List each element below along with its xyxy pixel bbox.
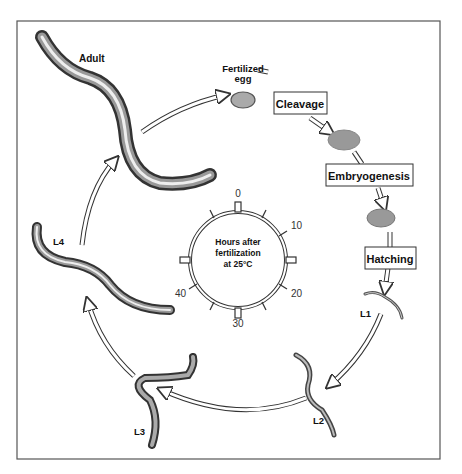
clock-tick-30: 30 bbox=[232, 318, 244, 329]
clock-caption-line2: fertilization bbox=[215, 248, 260, 258]
fertilized-egg-icon bbox=[231, 92, 255, 108]
clock-caption-line3: at 25°C bbox=[224, 259, 253, 269]
cleavage-embryo-icon bbox=[328, 130, 360, 150]
l2-label: L2 bbox=[313, 415, 324, 426]
egg-label-line2: egg bbox=[235, 73, 252, 84]
life-cycle-diagram: Adult Fertilized egg Cleavage Embryogene… bbox=[0, 0, 462, 474]
adult-label: Adult bbox=[79, 53, 105, 64]
clock-tick-0: 0 bbox=[235, 188, 241, 199]
l1-label: L1 bbox=[360, 308, 372, 319]
embryogenesis-embryo-icon bbox=[367, 209, 395, 227]
clock-tick-10: 10 bbox=[291, 220, 303, 231]
cleavage-label: Cleavage bbox=[276, 98, 324, 110]
clock-caption-line1: Hours after bbox=[215, 237, 261, 247]
clock-tick-20: 20 bbox=[291, 288, 303, 299]
hatching-label: Hatching bbox=[366, 253, 413, 265]
clock-tick-40: 40 bbox=[175, 288, 187, 299]
embryogenesis-label: Embryogenesis bbox=[328, 170, 410, 182]
l3-label: L3 bbox=[134, 426, 145, 437]
l4-label: L4 bbox=[53, 236, 65, 247]
